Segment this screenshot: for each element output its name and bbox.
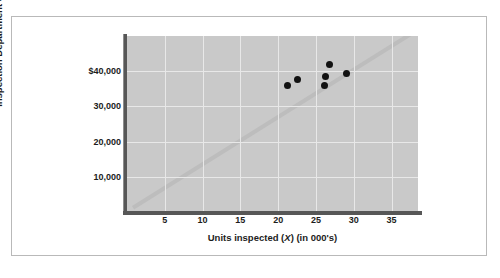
x-tick-label: 20 [273, 215, 283, 225]
x-axis-title: Units inspected (X) (in 000's) [127, 232, 418, 243]
y-tick-label: 30,000 [93, 101, 121, 111]
x-tick-label: 35 [387, 215, 397, 225]
x-tick-label: 25 [311, 215, 321, 225]
x-tick-label: 10 [198, 215, 208, 225]
x-axis-title-pre: Units inspected ( [208, 232, 285, 243]
x-tick-label: 30 [349, 215, 359, 225]
x-tick-label: 15 [235, 215, 245, 225]
x-tick-label: 5 [162, 215, 167, 225]
y-axis-title: Inspection Department costs (Y) [0, 0, 4, 124]
y-tick-label: 20,000 [93, 137, 121, 147]
y-tick-label: 10,000 [93, 172, 121, 182]
x-axis-title-post: ) (in 000's) [291, 232, 338, 243]
y-axis-title-pre: Inspection Department costs ( [0, 0, 4, 107]
chart-page: 10,00020,00030,000$40,000 5101520253035 … [0, 0, 500, 278]
y-tick-label: $40,000 [88, 66, 121, 76]
